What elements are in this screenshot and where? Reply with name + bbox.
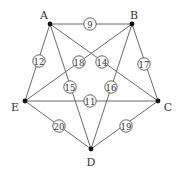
weight-value: 14 xyxy=(97,58,108,68)
weighted-graph-diagram: 9121514181617112019 ABCDE xyxy=(0,0,180,178)
edge-weight-e-d: 20 xyxy=(53,120,65,132)
node-dot xyxy=(156,99,161,104)
weight-value: 15 xyxy=(65,83,76,93)
node-b: B xyxy=(130,9,138,27)
node-label: D xyxy=(87,156,96,169)
weight-value: 18 xyxy=(74,58,85,68)
edge-weight-b-d: 16 xyxy=(105,81,117,93)
weight-value: 9 xyxy=(87,20,92,30)
node-label: B xyxy=(130,9,138,22)
edge-weight-b-c: 17 xyxy=(138,58,150,70)
nodes-layer: ABCDE xyxy=(11,9,172,169)
weight-value: 19 xyxy=(121,122,132,132)
weight-value: 11 xyxy=(85,97,96,107)
edge-weight-a-c: 14 xyxy=(96,56,108,68)
edge-weight-e-c: 11 xyxy=(84,95,96,107)
weight-value: 17 xyxy=(139,60,150,70)
node-dot xyxy=(48,22,53,27)
edge-weight-c-d: 19 xyxy=(120,120,132,132)
edge-weights-layer: 9121514181617112019 xyxy=(33,18,150,132)
node-label: E xyxy=(11,101,19,114)
node-d: D xyxy=(87,147,96,169)
node-c: C xyxy=(156,99,173,114)
node-label: C xyxy=(164,101,172,114)
node-e: E xyxy=(11,99,27,114)
node-a: A xyxy=(39,9,52,27)
edge-weight-b-e: 18 xyxy=(73,56,85,68)
weight-value: 20 xyxy=(54,122,65,132)
edges-layer xyxy=(25,24,158,149)
node-label: A xyxy=(39,9,49,22)
edge-weight-a-e: 12 xyxy=(33,55,45,67)
edge-weight-a-b: 9 xyxy=(84,18,96,30)
weight-value: 12 xyxy=(34,57,45,67)
node-dot xyxy=(89,147,94,152)
node-dot xyxy=(130,22,135,27)
edge-weight-a-d: 15 xyxy=(64,81,76,93)
weight-value: 16 xyxy=(106,83,117,93)
node-dot xyxy=(23,99,28,104)
